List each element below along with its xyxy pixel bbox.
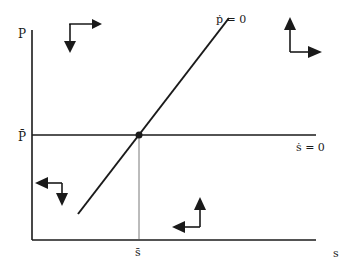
s-bar-tick-label: s̄ [135,246,141,259]
arrow-pair-lower-right [172,197,206,233]
p-dot-zero-label: ṗ = 0 [216,13,246,26]
p-bar-tick-label: P̄ [18,129,26,144]
arrow-right-icon [70,24,94,25]
phase-diagram: P P̄ s̄ s ṗ = 0 ṡ = 0 [0,0,362,268]
y-axis-label: P [18,27,26,41]
x-axis-label: s [333,247,339,260]
arrow-pair-lower-left [35,177,68,206]
equilibrium-point [136,132,143,139]
arrow-pair-upper-right [284,17,322,58]
p-dot-zero-line [78,18,229,214]
s-dot-zero-label: ṡ = 0 [296,141,325,154]
arrow-pair-upper-left [64,19,102,53]
